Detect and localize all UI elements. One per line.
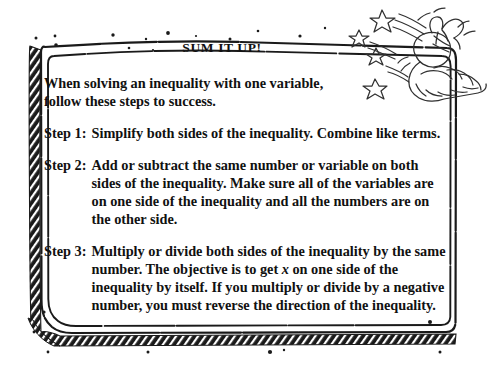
page-title: SUM IT UP!	[0, 38, 448, 56]
step-text-3: Multiply or divide both sides of the ine…	[92, 242, 449, 314]
step-text-2: Add or subtract the same number or varia…	[92, 156, 449, 228]
variable-x: x	[282, 261, 289, 277]
step-text-1: Simplify both sides of the inequality. C…	[92, 124, 449, 142]
intro-paragraph: When solving an inequality with one vari…	[44, 74, 362, 110]
step-item-1: Step 1: Simplify both sides of the inequ…	[44, 124, 448, 142]
step-label-3: Step 3:	[44, 242, 92, 260]
worksheet-poster: SUM IT UP! When solving an inequality wi…	[0, 0, 487, 377]
step-item-3: Step 3: Multiply or divide both sides of…	[44, 242, 448, 314]
step-label-2: Step 2:	[44, 156, 92, 174]
step-label-1: Step 1:	[44, 124, 92, 142]
star-icon-1	[370, 10, 395, 32]
poster-content: SUM IT UP! When solving an inequality wi…	[44, 38, 448, 328]
step-item-2: Step 2: Add or subtract the same number …	[44, 156, 448, 228]
